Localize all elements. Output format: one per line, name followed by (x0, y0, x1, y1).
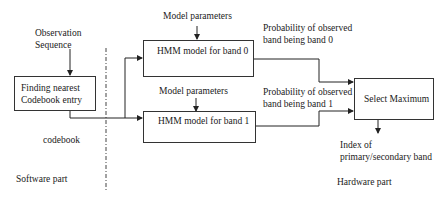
edge-codebook-out (70, 111, 125, 118)
probability-band0-line2: band being band 0 (263, 34, 352, 46)
model-parameters-label-1: Model parameters (159, 85, 228, 97)
edge-hmm0-to-select (254, 59, 353, 82)
edge-split-to-hmm0 (125, 58, 142, 118)
observation-line2: Sequence (35, 39, 81, 51)
probability-band1-line2: band being band 1 (263, 98, 352, 110)
probability-band0-label: Probability of observed band being band … (263, 22, 352, 46)
codebook-label: codebook (43, 134, 80, 146)
hardware-part-label: Hardware part (337, 176, 392, 188)
observation-sequence-label: Observation Sequence (35, 27, 81, 51)
hmm-band1-box: HMM model for band 1 (143, 111, 256, 143)
edge-hmm1-to-select (256, 111, 353, 126)
model-parameters-label-0: Model parameters (163, 10, 232, 22)
codebook-finder-line1: Finding nearest (21, 82, 80, 94)
observation-line1: Observation (35, 27, 81, 39)
hmm-band0-box: HMM model for band 0 (143, 40, 254, 77)
select-maximum-box: Select Maximum (354, 78, 434, 120)
index-line2: primary/secondary band (340, 151, 432, 163)
probability-band1-label: Probability of observed band being band … (263, 86, 352, 110)
index-output-label: Index of primary/secondary band (340, 139, 432, 163)
codebook-finder-line2: Codebook entry (21, 94, 82, 106)
select-maximum-label: Select Maximum (364, 93, 429, 105)
probability-band0-line1: Probability of observed (263, 22, 352, 34)
codebook-finder-box: Finding nearest Codebook entry (14, 76, 96, 111)
probability-band1-line1: Probability of observed (263, 86, 352, 98)
hmm-band1-label: HMM model for band 1 (158, 115, 249, 127)
software-part-label: Software part (16, 173, 67, 185)
hmm-band0-label: HMM model for band 0 (157, 45, 248, 57)
index-line1: Index of (340, 139, 432, 151)
